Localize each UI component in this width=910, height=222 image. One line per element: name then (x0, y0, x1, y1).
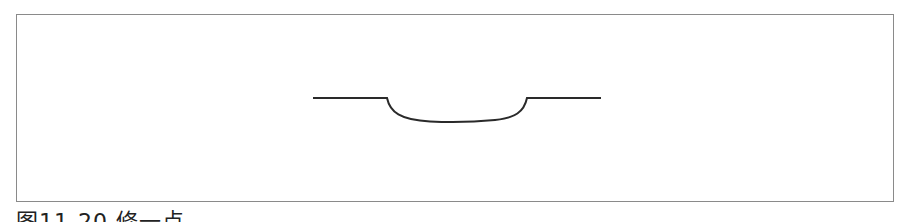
profile-line (313, 98, 601, 122)
depression-profile-diagram (0, 0, 910, 222)
figure-caption: 图11-20 修一点 (16, 209, 185, 222)
